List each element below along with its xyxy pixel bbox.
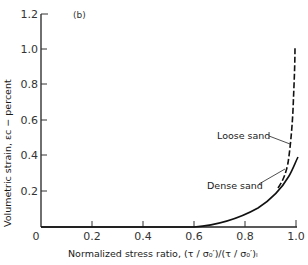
y-tick-label: 0.6 (21, 114, 39, 127)
chart: 1.2 1.0 0.8 0.6 0.4 0.2 0 0.2 0.4 0.6 0.… (0, 0, 308, 265)
chart-canvas: 1.2 1.0 0.8 0.6 0.4 0.2 0 0.2 0.4 0.6 0.… (0, 0, 308, 265)
y-tick-label: 0.2 (21, 185, 39, 198)
y-ticks (41, 14, 48, 191)
dense-sand-curve (41, 157, 298, 227)
x-tick-label: 0 (33, 230, 40, 243)
y-axis-title: Volumetric strain, εc − percent (2, 79, 13, 227)
x-tick-label: 0.4 (134, 230, 152, 243)
y-tick-label: 0.8 (21, 78, 39, 91)
x-tick-label: 0.6 (185, 230, 203, 243)
x-axis-title: Normalized stress ratio, (τ / σ₀′)/(τ / … (68, 248, 258, 259)
x-tick-label: 0.2 (83, 230, 101, 243)
x-tick-label: 0.8 (236, 230, 254, 243)
x-tick-label: 1.0 (287, 230, 305, 243)
y-tick-label: 1.2 (21, 8, 39, 21)
dense-sand-leader (259, 169, 285, 184)
dense-sand-label: Dense sand (207, 180, 263, 191)
loose-sand-curve (278, 46, 295, 188)
y-tick-label: 1.0 (21, 43, 39, 56)
x-ticks (92, 220, 296, 227)
panel-label: (b) (73, 10, 86, 20)
loose-sand-leader (269, 136, 290, 144)
y-tick-label: 0.4 (21, 149, 39, 162)
loose-sand-label: Loose sand (217, 130, 270, 141)
